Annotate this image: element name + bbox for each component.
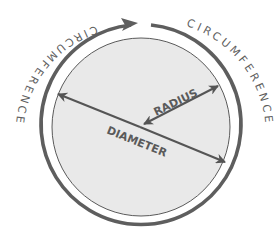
- circle-diagram: RADIUS DIAMETER CIRCUMFERENCE CIRCUMFERE…: [0, 0, 278, 250]
